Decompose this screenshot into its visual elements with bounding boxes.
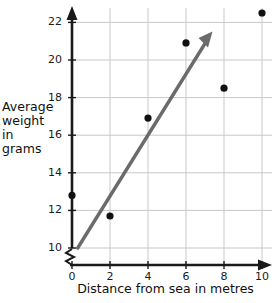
data-point [220,85,227,92]
y-axis-title-line-3: in [2,128,60,142]
x-axis-line [70,260,272,271]
ytick-label-22: 22 [40,16,62,27]
data-point [144,115,151,122]
y-axis-title-line-2: weight [2,114,60,128]
x-axis-arrowhead [258,260,272,271]
data-point [106,212,113,219]
ytick-label-14: 14 [40,167,62,178]
y-axis-title-line-4: grams [2,142,60,156]
y-axis-break-icon [66,249,74,265]
ytick-label-12: 12 [40,204,62,215]
scatter-chart-figure: 10 12 14 16 18 20 22 0 2 4 6 8 10 Averag… [0,0,275,303]
x-axis-title: Distance from sea in metres [58,282,273,296]
y-axis-line [67,6,78,248]
y-axis-title: Average weight in grams [2,100,60,156]
data-point [258,9,265,16]
horizontal-gridlines [72,22,272,248]
data-point [182,39,189,46]
xtick-label-10: 10 [252,271,272,282]
trend-line-arrow [78,32,213,249]
ytick-label-10: 10 [40,242,62,253]
data-point [68,192,75,199]
ytick-label-20: 20 [40,54,62,65]
y-axis-title-line-1: Average [2,100,60,114]
y-axis-arrowhead [67,6,78,20]
data-points [68,9,265,219]
